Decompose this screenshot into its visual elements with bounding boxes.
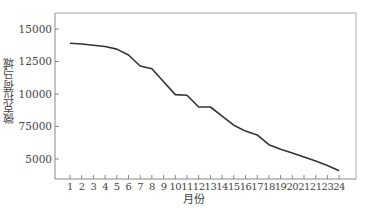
x-tick-label: 6: [126, 181, 132, 192]
x-tick-label: 20: [286, 181, 298, 192]
y-tick-label: 5000: [25, 153, 52, 165]
x-tick-label: 21: [310, 181, 322, 192]
x-tick-label: 21: [298, 181, 310, 192]
y-axis-ticks: 150001250010000750005000: [19, 23, 59, 165]
y-tick-label: 12500: [19, 55, 52, 67]
x-tick-label: 7: [137, 181, 143, 192]
y-tick-label: 75000: [19, 120, 52, 132]
y-axis-title: 微克拉荷马城: [4, 58, 18, 124]
x-tick-label: 5: [114, 181, 120, 192]
x-tick-label: 18: [263, 181, 275, 192]
data-series-line: [70, 43, 339, 170]
x-tick-label: 23: [322, 181, 334, 192]
line-chart: 150001250010000750005000 123456789101112…: [0, 0, 366, 208]
x-tick-label: 24: [333, 181, 345, 192]
x-tick-label: 2: [79, 181, 85, 192]
x-axis-title: 月份: [180, 190, 208, 206]
x-tick-label: 17: [251, 181, 263, 192]
y-tick-label: 15000: [19, 23, 52, 35]
x-tick-label: 9: [161, 181, 167, 192]
chart-canvas: 150001250010000750005000 123456789101112…: [0, 0, 366, 208]
x-tick-label: 8: [149, 181, 155, 192]
plot-frame: [55, 13, 356, 179]
x-tick-label: 16: [240, 181, 252, 192]
x-tick-label: 1: [67, 181, 73, 192]
x-tick-label: 3: [90, 181, 96, 192]
x-tick-label: 19: [275, 181, 287, 192]
x-tick-label: 15: [228, 181, 240, 192]
y-tick-label: 10000: [19, 88, 52, 100]
x-tick-label: 4: [102, 181, 108, 192]
x-tick-label: 14: [216, 181, 228, 192]
